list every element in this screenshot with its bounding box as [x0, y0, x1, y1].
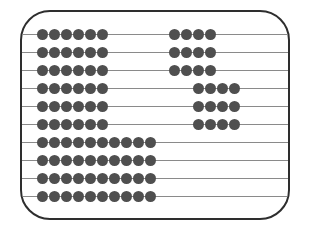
abacus-bead — [217, 119, 228, 130]
abacus-bead — [85, 137, 96, 148]
abacus-bead — [85, 101, 96, 112]
abacus-bead — [193, 83, 204, 94]
abacus-bead — [205, 119, 216, 130]
abacus-bead — [229, 83, 240, 94]
abacus-bead — [49, 47, 60, 58]
abacus-bead — [217, 101, 228, 112]
abacus-bead — [145, 155, 156, 166]
abacus-bead — [37, 191, 48, 202]
abacus-bead — [121, 137, 132, 148]
abacus-bead — [85, 29, 96, 40]
abacus-bead — [49, 137, 60, 148]
abacus-bead — [193, 101, 204, 112]
abacus-bead — [97, 137, 108, 148]
abacus-bead — [73, 173, 84, 184]
abacus-bead — [109, 173, 120, 184]
abacus-bead — [205, 83, 216, 94]
abacus-bead — [97, 155, 108, 166]
abacus-bead — [85, 173, 96, 184]
abacus-bead — [61, 173, 72, 184]
abacus-bead — [109, 191, 120, 202]
abacus-bead — [73, 137, 84, 148]
abacus-bead — [169, 47, 180, 58]
abacus-bead — [73, 191, 84, 202]
abacus-bead — [37, 83, 48, 94]
abacus-bead — [37, 155, 48, 166]
abacus-bead — [205, 29, 216, 40]
abacus-bead — [145, 173, 156, 184]
abacus-bead — [49, 83, 60, 94]
abacus-bead — [73, 29, 84, 40]
abacus-bead — [97, 83, 108, 94]
abacus-bead — [181, 29, 192, 40]
abacus-bead — [121, 155, 132, 166]
abacus-bead — [61, 119, 72, 130]
abacus-bead — [37, 65, 48, 76]
abacus-bead — [205, 65, 216, 76]
abacus-bead — [97, 173, 108, 184]
abacus-frame — [20, 10, 290, 220]
abacus-bead — [97, 191, 108, 202]
abacus-bead — [73, 101, 84, 112]
abacus-bead — [85, 83, 96, 94]
abacus-bead — [229, 119, 240, 130]
abacus-bead — [109, 155, 120, 166]
abacus-bead — [49, 173, 60, 184]
abacus-bead — [217, 83, 228, 94]
abacus-bead — [97, 47, 108, 58]
abacus-bead — [37, 47, 48, 58]
abacus-bead — [61, 137, 72, 148]
abacus-bead — [169, 29, 180, 40]
abacus-bead — [49, 191, 60, 202]
abacus-bead — [97, 101, 108, 112]
abacus-bead — [97, 119, 108, 130]
abacus-bead — [61, 191, 72, 202]
abacus-bead — [37, 137, 48, 148]
abacus-bead — [73, 65, 84, 76]
abacus-bead — [85, 47, 96, 58]
abacus-bead — [61, 65, 72, 76]
abacus-bead — [193, 65, 204, 76]
abacus-bead — [121, 191, 132, 202]
abacus-bead — [61, 47, 72, 58]
abacus-bead — [73, 47, 84, 58]
abacus-bead — [49, 155, 60, 166]
abacus-bead — [205, 47, 216, 58]
abacus-bead — [193, 119, 204, 130]
abacus-bead — [61, 83, 72, 94]
abacus-bead — [193, 29, 204, 40]
abacus-bead — [85, 119, 96, 130]
abacus-bead — [37, 173, 48, 184]
abacus-bead — [133, 191, 144, 202]
abacus-bead — [61, 29, 72, 40]
abacus-bead — [85, 65, 96, 76]
abacus-bead — [133, 155, 144, 166]
abacus-bead — [109, 137, 120, 148]
abacus-bead — [85, 191, 96, 202]
abacus-bead — [73, 155, 84, 166]
abacus-bead — [85, 155, 96, 166]
abacus-bead — [193, 47, 204, 58]
abacus-bead — [49, 29, 60, 40]
abacus-bead — [205, 101, 216, 112]
abacus-bead — [133, 173, 144, 184]
abacus-bead — [37, 29, 48, 40]
abacus-bead — [49, 119, 60, 130]
abacus-bead — [37, 119, 48, 130]
abacus-bead — [181, 47, 192, 58]
abacus-bead — [73, 119, 84, 130]
abacus-bead — [97, 29, 108, 40]
abacus-bead — [145, 137, 156, 148]
abacus-bead — [133, 137, 144, 148]
abacus-bead — [61, 101, 72, 112]
abacus-bead — [181, 65, 192, 76]
abacus-bead — [73, 83, 84, 94]
abacus-bead — [49, 101, 60, 112]
abacus-bead — [97, 65, 108, 76]
abacus-bead — [49, 65, 60, 76]
abacus-bead — [229, 101, 240, 112]
abacus-bead — [121, 173, 132, 184]
abacus-bead — [37, 101, 48, 112]
abacus-bead — [169, 65, 180, 76]
abacus-bead — [61, 155, 72, 166]
